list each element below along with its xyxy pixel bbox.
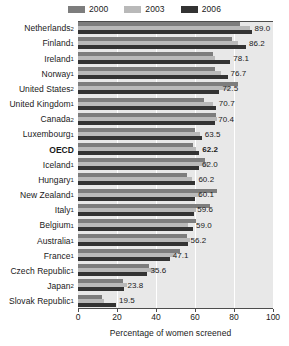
category-label-text: Japan	[47, 282, 70, 291]
x-tick-label-60: 60	[190, 313, 199, 322]
bar-2006	[78, 106, 216, 110]
bar-2006	[78, 181, 195, 185]
legend-item-2006: 2006	[181, 5, 221, 14]
category-label-text: United Kingdom	[9, 100, 70, 109]
bar-group	[78, 21, 273, 36]
bar-value-label: 59.0	[196, 222, 212, 230]
category-label: France1	[0, 248, 74, 263]
category-label: New Zealand1	[0, 188, 74, 203]
legend-item-2003: 2003	[124, 5, 164, 14]
bar-2006	[78, 242, 188, 246]
x-tick-label-80: 80	[229, 313, 238, 322]
category-label-text: Iceland	[43, 161, 71, 170]
bar-value-label: 89.0	[255, 25, 271, 33]
category-label: Italy1	[0, 203, 74, 218]
bar-group	[78, 218, 273, 233]
bar-group	[78, 97, 273, 112]
legend-swatch-2000	[68, 6, 85, 13]
bar-group	[78, 203, 273, 218]
bar-value-label: 62.2	[202, 146, 218, 154]
category-label-text: Czech Republic	[10, 267, 70, 276]
category-label: Czech Republic1	[0, 264, 74, 279]
chart-row: Iceland162.0	[0, 157, 289, 172]
x-tick-label-100: 100	[266, 313, 280, 322]
bar-value-label: 72.5	[222, 85, 238, 93]
chart-row: France147.1	[0, 248, 289, 263]
category-label: Finland1	[0, 36, 74, 51]
bar-value-label: 35.6	[150, 267, 166, 275]
chart-row: Ireland178.1	[0, 51, 289, 66]
category-label: Canada2	[0, 112, 74, 127]
category-label: Japan2	[0, 279, 74, 294]
bar-group	[78, 279, 273, 294]
bar-group	[78, 294, 273, 309]
bar-value-label: 23.8	[127, 282, 143, 290]
category-label: United States2	[0, 82, 74, 97]
chart-row: Czech Republic135.6	[0, 264, 289, 279]
bar-group	[78, 142, 273, 157]
bar-value-label: 56.2	[191, 237, 207, 245]
bar-value-label: 63.5	[205, 131, 221, 139]
bar-value-label: 60.1	[198, 191, 214, 199]
bar-group	[78, 233, 273, 248]
bar-2006	[78, 121, 215, 125]
legend-label-2006: 2006	[202, 5, 221, 14]
bar-value-label: 78.1	[233, 55, 249, 63]
legend-item-2000: 2000	[68, 5, 108, 14]
category-label-text: Belgium	[40, 221, 71, 230]
chart-row: Luxembourg163.5	[0, 127, 289, 142]
bar-2006	[78, 45, 246, 49]
bar-2006	[78, 151, 199, 155]
bar-2006	[78, 90, 219, 94]
category-label: Iceland1	[0, 157, 74, 172]
category-label-text: Slovak Republic	[9, 297, 71, 306]
bar-group	[78, 112, 273, 127]
chart-row: Netherlands289.0	[0, 21, 289, 36]
bar-value-label: 76.7	[231, 70, 247, 78]
category-label: Luxembourg1	[0, 127, 74, 142]
bar-2006	[78, 136, 202, 140]
bar-2006	[78, 75, 228, 79]
category-label-text: OECD	[49, 146, 74, 155]
category-label-text: France	[44, 252, 71, 261]
bar-group	[78, 82, 273, 97]
bar-value-label: 62.0	[202, 161, 218, 169]
bar-2006	[78, 227, 193, 231]
bar-group	[78, 157, 273, 172]
bar-value-label: 86.2	[249, 40, 265, 48]
chart-row: Finland186.2	[0, 36, 289, 51]
legend-swatch-2003	[124, 6, 141, 13]
category-label-text: Hungary	[38, 176, 70, 185]
chart-row: Norway176.7	[0, 66, 289, 81]
bar-2006	[78, 30, 252, 34]
x-tick-label-40: 40	[151, 313, 160, 322]
category-label: Belgium1	[0, 218, 74, 233]
category-label-text: Netherlands	[24, 24, 70, 33]
category-label: Netherlands2	[0, 21, 74, 36]
category-label: Hungary1	[0, 173, 74, 188]
bar-group	[78, 36, 273, 51]
category-label-text: Italy	[55, 206, 71, 215]
chart-row: Canada270.4	[0, 112, 289, 127]
chart-row: Belgium159.0	[0, 218, 289, 233]
category-label: Norway1	[0, 66, 74, 81]
bar-2006	[78, 287, 124, 291]
category-label: Ireland1	[0, 51, 74, 66]
bar-value-label: 19.5	[119, 297, 135, 305]
category-label-text: Australia	[37, 237, 71, 246]
bar-group	[78, 264, 273, 279]
bar-2006	[78, 303, 116, 307]
bar-value-label: 47.1	[173, 252, 189, 260]
category-label: OECD	[0, 142, 74, 157]
category-label-text: Ireland	[44, 55, 70, 64]
category-label: Australia1	[0, 233, 74, 248]
chart-row: United Kingdom170.7	[0, 97, 289, 112]
bar-group	[78, 173, 273, 188]
legend-label-2003: 2003	[145, 5, 164, 14]
bar-2006	[78, 166, 199, 170]
chart-row: Slovak Republic119.5	[0, 294, 289, 309]
category-label: Slovak Republic1	[0, 294, 74, 309]
category-label-text: Finland	[42, 39, 70, 48]
bar-2006	[78, 212, 194, 216]
bar-2006	[78, 272, 147, 276]
